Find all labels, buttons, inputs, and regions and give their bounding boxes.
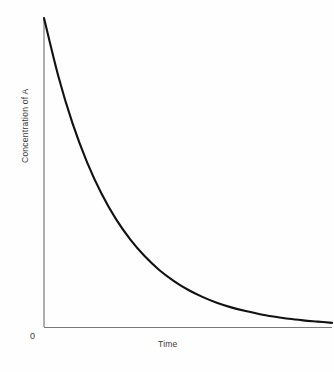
x-axis-label: Time bbox=[158, 339, 178, 349]
y-axis-label: Concentration of A bbox=[20, 113, 30, 127]
chart-container: Concentration of A Time 0 bbox=[0, 0, 334, 372]
concentration-decay-curve bbox=[44, 18, 332, 323]
y-axis-label-text: Concentration of A bbox=[20, 149, 30, 163]
origin-tick-label: 0 bbox=[30, 331, 35, 341]
decay-curve-plot bbox=[0, 0, 334, 372]
